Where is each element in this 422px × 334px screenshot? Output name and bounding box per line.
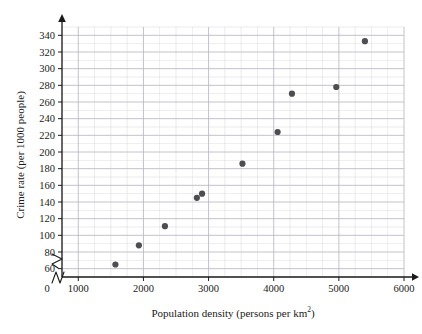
x-tick-label: 4000 xyxy=(263,283,284,294)
y-tick-label: 180 xyxy=(39,163,55,174)
x-tick-label: 1000 xyxy=(68,283,89,294)
y-tick-label: 140 xyxy=(39,197,55,208)
y-tick-label: 200 xyxy=(39,147,55,158)
data-point xyxy=(362,38,368,44)
y-tick-label: 240 xyxy=(39,113,55,124)
y-tick-label: 160 xyxy=(39,180,55,191)
data-point xyxy=(333,84,339,90)
x-tick-label: 3000 xyxy=(198,283,219,294)
scatter-plot-figure: 6080100120140160180200220240260280300320… xyxy=(0,0,422,334)
x-tick-label: 5000 xyxy=(328,283,349,294)
data-point xyxy=(289,91,295,97)
y-tick-label: 100 xyxy=(39,230,55,241)
x-tick-label: 6000 xyxy=(394,283,415,294)
data-point xyxy=(199,191,205,197)
x-axis-label: Population density (persons per km 2 ) xyxy=(151,305,315,320)
data-point xyxy=(162,223,168,229)
x-tick-label: 2000 xyxy=(133,283,154,294)
data-point xyxy=(239,161,245,167)
y-tick-label: 120 xyxy=(39,213,55,224)
chart-canvas: 6080100120140160180200220240260280300320… xyxy=(0,0,422,334)
x-axis-label-text: Population density (persons per km xyxy=(151,307,307,320)
x-axis-label-tail: ) xyxy=(311,307,315,320)
data-point xyxy=(275,129,281,135)
data-point xyxy=(136,242,142,248)
y-tick-label: 80 xyxy=(45,247,56,258)
y-tick-label: 340 xyxy=(39,30,55,41)
y-tick-label: 260 xyxy=(39,97,55,108)
origin-label: 0 xyxy=(44,283,49,294)
data-point xyxy=(112,261,118,267)
y-tick-label: 300 xyxy=(39,63,55,74)
y-axis-label: Crime rate (per 1000 people) xyxy=(14,91,27,219)
y-tick-label: 220 xyxy=(39,130,55,141)
data-point xyxy=(194,195,200,201)
y-tick-label: 320 xyxy=(39,47,55,58)
y-tick-label: 280 xyxy=(39,80,55,91)
